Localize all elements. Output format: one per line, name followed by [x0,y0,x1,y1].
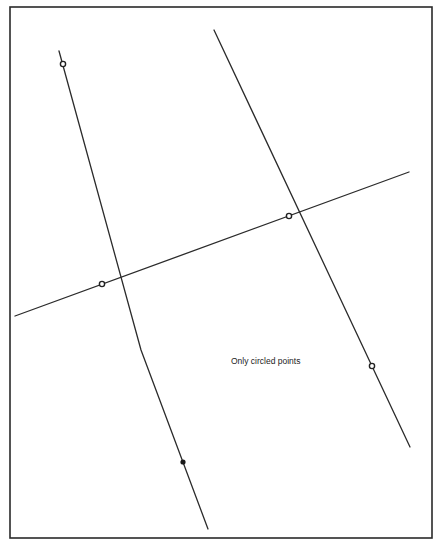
circled-point [369,363,374,368]
circled-point [99,281,104,286]
diagram-figure: Only circled points [0,0,437,552]
circled-point [60,61,65,66]
figure-frame [10,7,432,538]
right-line [214,30,410,447]
annotation-label: Only circled points [231,356,300,366]
solid-points-group [180,459,185,464]
lines-group [15,30,410,529]
left-bent-line [59,51,208,529]
circled-point [286,213,291,218]
circled-points-group [60,61,374,368]
solid-point [180,459,185,464]
crossing-line [15,172,409,316]
